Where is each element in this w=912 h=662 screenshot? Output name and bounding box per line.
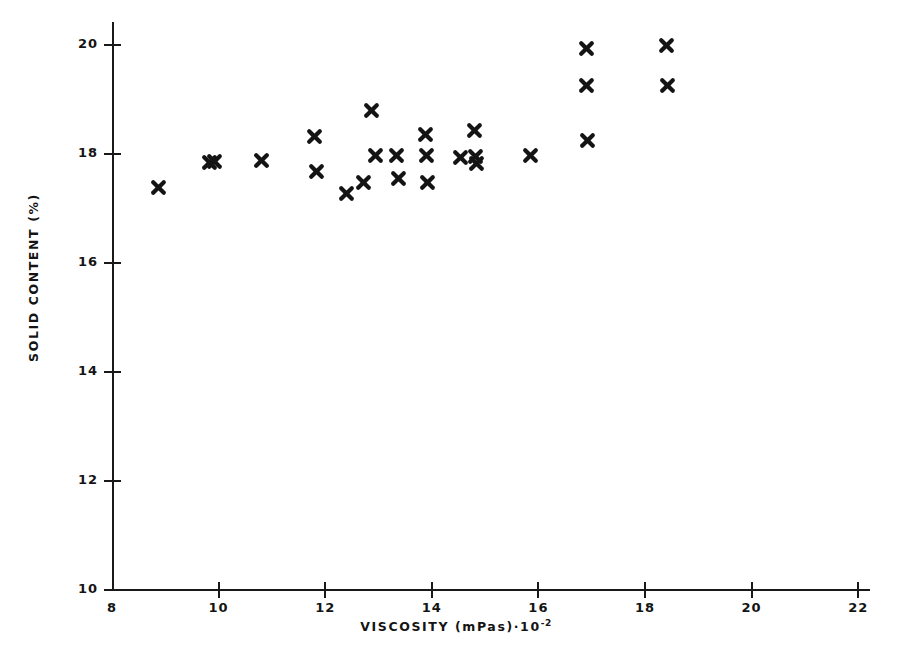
scatter-plot-figure: 101214161820 810121416182022 SOLID CONTE… [0, 0, 912, 662]
data-point [252, 151, 271, 170]
y-tick-12 [104, 480, 121, 482]
x-tick-label-18: 18 [620, 600, 670, 615]
y-tick-16 [104, 262, 121, 264]
y-tick-18 [104, 153, 121, 155]
data-point [465, 121, 484, 140]
y-tick-label-20: 20 [60, 36, 98, 51]
y-tick-label-10: 10 [60, 581, 98, 596]
data-point [417, 146, 436, 165]
data-point [578, 131, 597, 150]
x-tick-12 [324, 582, 326, 598]
x-tick-18 [644, 582, 646, 598]
data-point [418, 173, 437, 192]
x-tick-10 [218, 582, 220, 598]
data-point [362, 101, 381, 120]
x-tick-label-22: 22 [833, 600, 883, 615]
y-tick-label-12: 12 [60, 472, 98, 487]
data-point [521, 146, 540, 165]
y-tick-20 [104, 44, 121, 46]
data-point [205, 152, 224, 171]
data-point [307, 162, 326, 181]
data-point [389, 169, 408, 188]
x-axis-title: VISCOSITY (mPas)·10-2 [0, 618, 912, 634]
y-tick-10 [104, 589, 121, 591]
data-point [387, 146, 406, 165]
x-tick-label-20: 20 [727, 600, 777, 615]
data-point [577, 76, 596, 95]
data-point [451, 148, 470, 167]
x-tick-label-14: 14 [407, 600, 457, 615]
y-axis-title: SOLID CONTENT (%) [26, 128, 41, 428]
x-tick-label-16: 16 [513, 600, 563, 615]
x-axis-title-exponent: -2 [541, 618, 552, 628]
data-point [354, 173, 373, 192]
x-axis-line [112, 589, 870, 591]
data-point [466, 147, 485, 166]
x-tick-16 [537, 582, 539, 598]
data-point [366, 146, 385, 165]
data-point [149, 178, 168, 197]
data-point [658, 76, 677, 95]
y-tick-label-16: 16 [60, 254, 98, 269]
data-point [657, 36, 676, 55]
y-tick-14 [104, 371, 121, 373]
data-point [200, 153, 219, 172]
x-axis-title-main: VISCOSITY (mPas)·10 [360, 619, 540, 634]
data-point [416, 125, 435, 144]
data-point [577, 39, 596, 58]
y-axis-line [112, 22, 114, 591]
y-tick-label-18: 18 [60, 145, 98, 160]
data-point [337, 184, 356, 203]
y-tick-label-14: 14 [60, 363, 98, 378]
x-tick-label-8: 8 [87, 600, 137, 615]
x-tick-label-12: 12 [300, 600, 350, 615]
data-point [305, 127, 324, 146]
x-tick-label-10: 10 [194, 600, 244, 615]
x-tick-20 [751, 582, 753, 598]
data-point [467, 154, 486, 173]
x-tick-22 [857, 582, 859, 598]
x-tick-14 [431, 582, 433, 598]
